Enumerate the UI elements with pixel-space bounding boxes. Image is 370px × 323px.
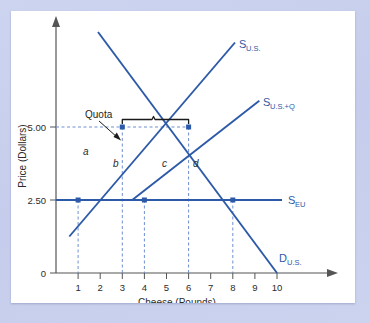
x-ticks-group	[78, 273, 277, 279]
x-tick-label: 2	[98, 282, 103, 293]
curve-label-d-us: D U.S.	[279, 252, 302, 267]
data-point-marker	[230, 198, 235, 203]
y-ticks-group	[50, 127, 56, 273]
data-point-marker	[120, 125, 125, 130]
data-point-marker	[142, 198, 147, 203]
y-tick-label: 0	[41, 268, 46, 279]
quota-label: Quota	[85, 109, 113, 120]
screenshot-root: 1 2 3 4 5 6 7 8 9 10	[0, 0, 370, 323]
x-tick-label: 9	[252, 282, 257, 293]
curve-s-us-plus-q	[132, 101, 259, 200]
curve-labels-group: S U.S. S U.S.+Q S EU D	[239, 38, 305, 267]
quota-arrow-head	[114, 133, 122, 141]
area-label-a: a	[83, 146, 89, 157]
quota-bracket	[122, 117, 188, 125]
x-tick-label: 1	[75, 282, 80, 293]
curve-label-s-us: S U.S.	[239, 38, 261, 53]
x-tick-labels-group: 1 2 3 4 5 6 7 8 9 10	[75, 282, 282, 293]
axis-group	[52, 16, 338, 277]
y-tick-labels-group: 0 2.50 5.00	[28, 122, 47, 279]
curve-label-s-us-plus-q-sub: U.S.+Q	[270, 102, 295, 111]
chart-svg: 1 2 3 4 5 6 7 8 9 10	[11, 11, 355, 303]
y-axis-arrow	[52, 16, 60, 27]
data-point-marker	[186, 125, 191, 130]
area-labels-group: a b c d	[83, 146, 199, 169]
area-label-c: c	[162, 158, 167, 169]
curve-label-s-us-plus-q: S U.S.+Q	[263, 96, 295, 111]
x-tick-label: 8	[230, 282, 235, 293]
curve-label-s-eu-sub: EU	[295, 200, 305, 209]
figure-card: 1 2 3 4 5 6 7 8 9 10	[11, 11, 355, 303]
data-point-marker	[76, 198, 81, 203]
economics-chart: 1 2 3 4 5 6 7 8 9 10	[11, 11, 355, 303]
curve-label-s-eu: S EU	[288, 194, 305, 209]
curve-d-us	[98, 32, 277, 273]
x-tick-label: 4	[142, 282, 147, 293]
x-tick-label: 3	[120, 282, 125, 293]
curve-label-s-us-sub: U.S.	[246, 44, 261, 53]
x-axis-title: Cheese (Pounds)	[138, 297, 216, 303]
x-tick-label: 6	[186, 282, 191, 293]
quota-annotation: Quota	[85, 109, 189, 141]
x-tick-label: 5	[164, 282, 169, 293]
x-tick-label: 7	[208, 282, 213, 293]
area-label-d: d	[193, 158, 199, 169]
y-tick-label: 5.00	[28, 122, 47, 133]
y-axis-title: Price (Dollars)	[17, 124, 28, 187]
curves-group	[56, 32, 282, 273]
quota-arrow-shaft	[99, 121, 118, 138]
area-label-b: b	[113, 158, 119, 169]
curve-label-d-us-main: D	[279, 252, 287, 264]
x-tick-label: 10	[272, 282, 283, 293]
curve-label-d-us-sub: U.S.	[287, 258, 302, 267]
y-tick-label: 2.50	[28, 195, 47, 206]
x-axis-arrow	[327, 269, 338, 277]
